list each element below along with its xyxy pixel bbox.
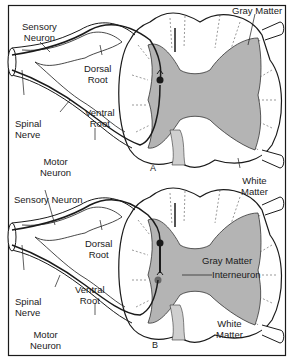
label-dorsal-root-a: Dorsal Root — [84, 64, 111, 85]
label-motor-neuron-a: Motor Neuron — [40, 157, 71, 178]
label-spinal-nerve-a: Spinal Nerve — [15, 119, 41, 140]
label-white-matter-top-b: White Matter — [241, 176, 268, 197]
label-ventral-root-b: Ventral Root — [75, 285, 105, 306]
label-sensory-neuron-b: Sensory Neuron — [14, 195, 83, 206]
panel-letter-b: B — [152, 340, 158, 351]
label-gray-matter-b: Gray Matter — [202, 256, 252, 267]
label-spinal-nerve-b: Spinal Nerve — [15, 297, 41, 318]
label-gray-matter-a: Gray Matter — [232, 6, 282, 17]
spinal-reflex-diagram: Sensory Neuron Dorsal Root Ventral Root … — [0, 0, 294, 363]
panel-letter-a: A — [150, 163, 156, 174]
label-motor-neuron-b: Motor Neuron — [30, 330, 61, 351]
label-ventral-root-a: Ventral Root — [85, 108, 115, 129]
label-dorsal-root-b: Dorsal Root — [85, 239, 112, 260]
label-interneuron-b: Interneuron — [212, 270, 261, 281]
label-white-matter-bottom-b: White Matter — [216, 319, 243, 340]
label-sensory-neuron-a: Sensory Neuron — [22, 22, 57, 43]
